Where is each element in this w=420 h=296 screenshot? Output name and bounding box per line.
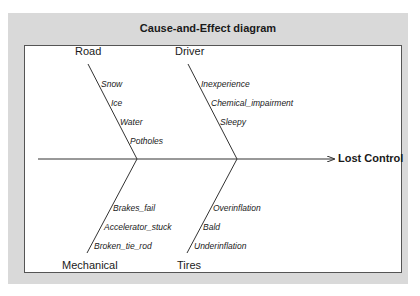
category-mechanical: Mechanical bbox=[62, 259, 118, 271]
cause-bald: Bald bbox=[203, 222, 220, 232]
cause-brakes-fail: Brakes_fail bbox=[113, 203, 155, 213]
fishbone-lines bbox=[0, 0, 420, 296]
cause-ice: Ice bbox=[111, 98, 122, 108]
effect-label: Lost Control bbox=[338, 152, 403, 164]
cause-overinflation: Overinflation bbox=[213, 203, 261, 213]
cause-accelerator-stuck: Accelerator_stuck bbox=[104, 222, 172, 232]
cause-snow: Snow bbox=[101, 79, 122, 89]
category-road: Road bbox=[75, 45, 101, 57]
cause-chemical-impairment: Chemical_impairment bbox=[211, 98, 293, 108]
cause-potholes: Potholes bbox=[130, 136, 163, 146]
category-tires: Tires bbox=[177, 259, 201, 271]
cause-underinflation: Underinflation bbox=[194, 241, 246, 251]
category-driver: Driver bbox=[175, 45, 204, 57]
cause-water: Water bbox=[120, 117, 143, 127]
cause-broken-tie-rod: Broken_tie_rod bbox=[94, 241, 152, 251]
cause-inexperience: Inexperience bbox=[201, 79, 250, 89]
cause-sleepy: Sleepy bbox=[220, 117, 246, 127]
